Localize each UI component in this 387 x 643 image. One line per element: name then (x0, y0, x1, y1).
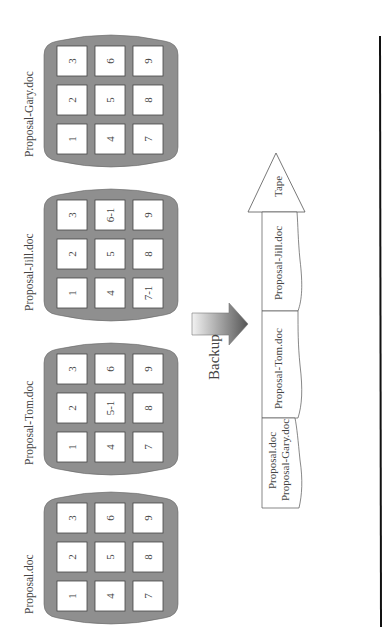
tape-label: Tape (272, 176, 284, 197)
block-label: 7 (142, 136, 154, 142)
block-label: 8 (142, 405, 154, 411)
block-label: 2 (66, 405, 78, 411)
block-label: 9 (142, 212, 154, 218)
block-label: 2 (66, 554, 78, 560)
block-label: 1 (66, 136, 78, 142)
block-label: 9 (142, 515, 154, 521)
block-label: 5 (104, 554, 116, 560)
block-label: 6 (104, 366, 116, 372)
tape-stack: Tape Proposal-Jill.doc Proposal-Tom.doc … (248, 153, 305, 508)
block-label: 3 (66, 366, 78, 372)
block-label: 1 (66, 444, 78, 450)
block-label: 8 (142, 554, 154, 560)
document-name: Proposal-Tom.doc (23, 381, 36, 465)
block-label: 7 (142, 444, 154, 450)
document-proposal-jill-doc: 123456-17-189Proposal-Jill.doc (23, 189, 178, 321)
document-proposal-tom-doc: 12345-16789Proposal-Tom.doc (23, 343, 178, 475)
document-proposal-doc: 123456789Proposal.doc (23, 492, 178, 624)
block-label: 3 (66, 212, 78, 218)
block-label: 2 (66, 251, 78, 257)
backup-diagram: 123456789Proposal-Gary.doc123456-17-189P… (0, 0, 387, 643)
document-proposal-gary-doc: 123456789Proposal-Gary.doc (23, 35, 178, 167)
svg-text:Proposal-Tom.doc: Proposal-Tom.doc (272, 328, 284, 409)
block-label: 5 (104, 251, 116, 257)
block-label: 4 (104, 593, 116, 599)
svg-text:Proposal-Gary.doc: Proposal-Gary.doc (279, 419, 291, 501)
document-name: Proposal-Gary.doc (23, 71, 36, 157)
block-label: 3 (66, 515, 78, 521)
svg-text:Proposal.doc: Proposal.doc (266, 432, 278, 489)
divider-line (380, 36, 381, 627)
block-label: 4 (104, 444, 116, 450)
svg-text:Proposal-Jill.doc: Proposal-Jill.doc (272, 226, 284, 300)
backup-label: Backup (206, 334, 222, 380)
block-label: 2 (66, 97, 78, 103)
block-label: 6 (104, 58, 116, 64)
block-label: 5-1 (104, 401, 116, 416)
document-name: Proposal-Jill.doc (23, 233, 36, 311)
block-label: 7-1 (142, 286, 154, 301)
block-label: 9 (142, 366, 154, 372)
block-label: 4 (104, 136, 116, 142)
block-label: 8 (142, 97, 154, 103)
block-label: 1 (66, 290, 78, 296)
block-label: 6-1 (104, 208, 116, 223)
block-label: 7 (142, 593, 154, 599)
block-label: 4 (104, 290, 116, 296)
block-label: 5 (104, 97, 116, 103)
block-label: 1 (66, 593, 78, 599)
document-name: Proposal.doc (23, 554, 36, 614)
block-label: 6 (104, 515, 116, 521)
block-label: 3 (66, 58, 78, 64)
block-label: 8 (142, 251, 154, 257)
block-label: 9 (142, 58, 154, 64)
